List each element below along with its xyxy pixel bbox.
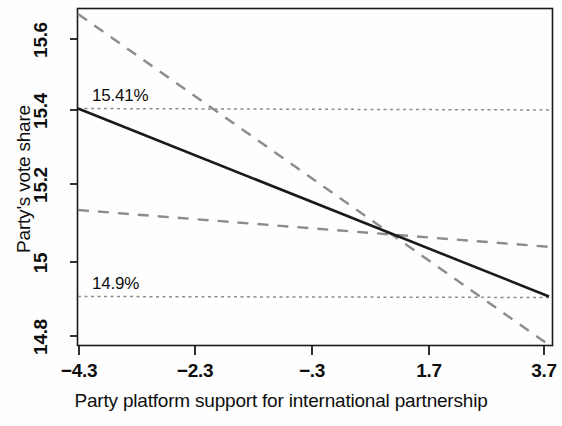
x-tick-label-neg-4-3: −4.3 xyxy=(47,360,111,382)
x-tick-label-neg-2-3: −2.3 xyxy=(163,360,227,382)
ci-lower-line xyxy=(78,210,551,247)
x-tick-label-1-7: 1.7 xyxy=(401,360,457,382)
y-tick-label-15-6: 15.6 xyxy=(30,17,52,63)
ci-upper-line xyxy=(78,14,549,345)
x-tick-label-3-7: 3.7 xyxy=(516,360,562,382)
y-axis-title: Party's vote share xyxy=(13,69,35,289)
plot-frame xyxy=(78,9,553,346)
x-axis-ticks xyxy=(79,345,544,355)
x-tick-label-neg-0-3: −.3 xyxy=(282,360,342,382)
reference-line-lower xyxy=(78,297,552,298)
y-tick-label-14-8: 14.8 xyxy=(30,314,52,360)
predicted-fit-line xyxy=(78,109,549,297)
reference-line-upper xyxy=(78,109,552,111)
annotation-upper-value: 15.41% xyxy=(92,86,148,106)
x-axis-title: Party platform support for international… xyxy=(0,390,562,412)
chart-figure: 15.6 15.4 15.2 15 14.8 −4.3 −2.3 −.3 1.7… xyxy=(0,0,562,426)
annotation-lower-value: 14.9% xyxy=(92,274,139,294)
